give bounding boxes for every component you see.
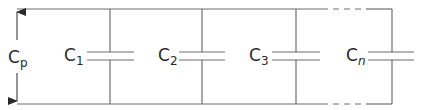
circuit-svg: Cp C1 C2 C3 <box>0 0 427 110</box>
capacitor-c2 <box>179 9 225 104</box>
circuit-diagram: Cp C1 C2 C3 <box>0 0 427 110</box>
cp-label: Cp <box>8 47 28 70</box>
c2-label: C2 <box>158 45 178 68</box>
capacitor-c1 <box>87 9 134 104</box>
capacitor-cn <box>368 9 414 104</box>
capacitor-c3 <box>272 9 320 104</box>
cn-label: Cn <box>346 45 365 68</box>
c1-label: C1 <box>64 45 84 68</box>
c3-label: C3 <box>249 45 269 68</box>
